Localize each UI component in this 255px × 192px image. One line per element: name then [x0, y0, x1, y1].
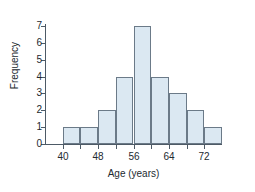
x-axis-tick	[116, 145, 117, 149]
y-axis-tick-label: 3	[30, 88, 42, 98]
x-axis-tick-label: 72	[192, 152, 216, 162]
histogram-bar	[151, 77, 169, 144]
x-axis-tick	[187, 145, 188, 149]
y-axis-tick-label: 5	[30, 55, 42, 65]
y-axis-line	[45, 24, 46, 145]
histogram-bar	[63, 127, 81, 144]
y-axis-title: Frequency	[9, 31, 20, 101]
y-axis-tick-label: 4	[30, 72, 42, 82]
x-axis-tick	[63, 145, 64, 149]
histogram-bar	[134, 26, 152, 144]
y-axis-tick-label: 6	[30, 38, 42, 48]
x-axis-tick-label: 40	[51, 152, 75, 162]
histogram-bar	[204, 127, 222, 144]
x-axis-title: Age (years)	[45, 168, 222, 179]
y-axis-tick-label: 7	[30, 21, 42, 31]
x-axis-tick	[169, 145, 170, 149]
histogram-bar	[116, 77, 134, 144]
y-axis-tick-label: 0	[30, 139, 42, 149]
x-axis-tick	[98, 145, 99, 149]
histogram-figure: 01234567 4048566472 Frequency Age (years…	[0, 0, 255, 192]
x-axis-tick-label: 48	[86, 152, 110, 162]
plot-area: 01234567 4048566472 Frequency Age (years…	[0, 0, 255, 192]
x-axis-tick	[80, 145, 81, 149]
histogram-bar	[80, 127, 98, 144]
x-axis-tick	[204, 145, 205, 149]
y-axis-tick-label: 2	[30, 105, 42, 115]
x-axis-tick-label: 64	[157, 152, 181, 162]
histogram-bar	[169, 93, 187, 144]
x-axis-tick	[134, 145, 135, 149]
x-axis-tick-label: 56	[122, 152, 146, 162]
y-axis-tick-label: 1	[30, 122, 42, 132]
histogram-bar	[187, 110, 205, 144]
x-axis-tick	[151, 145, 152, 149]
histogram-bar	[98, 110, 116, 144]
